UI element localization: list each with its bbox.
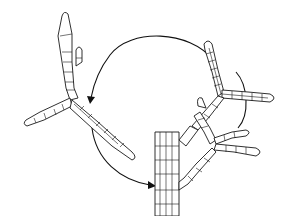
branch-system-left	[24, 12, 135, 160]
main-axis	[155, 132, 179, 216]
branch-system-lower-right	[179, 112, 260, 190]
branch-system-upper-right	[192, 41, 274, 130]
arc-arrow-top-to-left	[87, 36, 213, 104]
branching-filament-diagram	[0, 0, 292, 216]
